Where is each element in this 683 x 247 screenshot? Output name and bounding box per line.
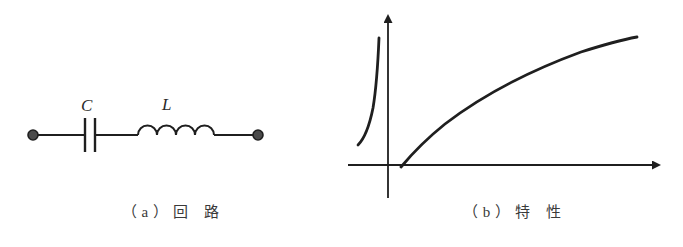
circuit-panel: C L （ a ） 回 路 — [0, 0, 341, 247]
inductor-coil — [138, 126, 214, 136]
terminal-node-right — [253, 130, 263, 140]
capacitor-label: C — [81, 96, 92, 116]
curve-left-branch — [358, 38, 379, 145]
curve-main-branch — [401, 37, 637, 167]
figure-root: C L （ a ） 回 路 X(ω) ω 0 ω0 （ b ） 特 性 — [0, 0, 683, 247]
terminal-node-left — [28, 130, 38, 140]
graph-panel: X(ω) ω 0 ω0 （ b ） 特 性 — [341, 0, 683, 247]
caption-panel-a: （ a ） 回 路 — [0, 200, 341, 221]
inductor-label: L — [162, 95, 171, 115]
caption-panel-b: （ b ） 特 性 — [341, 200, 683, 221]
